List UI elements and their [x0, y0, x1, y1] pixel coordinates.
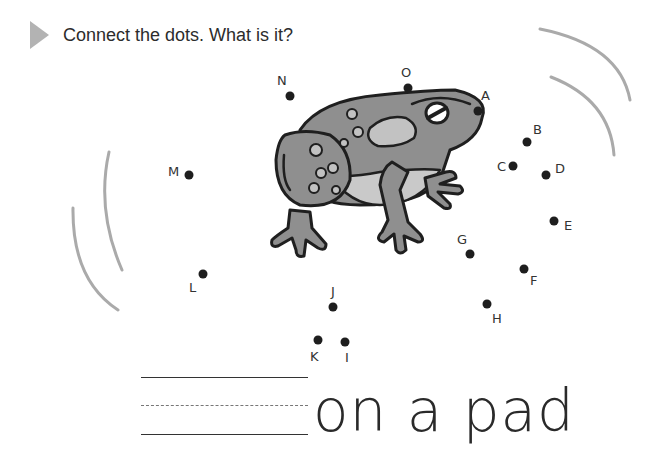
dot-label-m: M	[168, 165, 179, 178]
dot-j	[329, 303, 338, 312]
dot-f	[520, 265, 529, 274]
dot-n	[286, 92, 295, 101]
dot-c	[509, 162, 518, 171]
dot-o	[404, 84, 413, 93]
dot-m	[185, 171, 194, 180]
dot-label-a: A	[481, 89, 490, 102]
dot-label-b: B	[533, 123, 542, 136]
answer-suffix: on a pad	[313, 382, 575, 440]
dot-b	[523, 138, 532, 147]
dot-g	[466, 250, 475, 259]
answer-line-top	[141, 377, 308, 378]
dot-label-j: J	[331, 285, 335, 298]
dot-label-o: O	[401, 66, 411, 79]
dot-label-k: K	[310, 350, 319, 363]
dot-e	[550, 217, 559, 226]
dot-d	[542, 171, 551, 180]
answer-line-bottom[interactable]	[141, 434, 308, 435]
dot-label-f: F	[530, 274, 537, 287]
dot-label-i: I	[345, 351, 349, 364]
dot-label-e: E	[564, 219, 572, 232]
dot-l	[199, 270, 208, 279]
dot-h	[483, 300, 492, 309]
dot-label-c: C	[497, 160, 506, 173]
dot-label-g: G	[457, 233, 467, 246]
dot-label-l: L	[189, 281, 196, 294]
dot-a	[474, 107, 483, 116]
answer-line-mid	[141, 405, 308, 406]
dot-label-n: N	[277, 74, 287, 87]
dot-label-h: H	[492, 312, 502, 325]
dot-k	[314, 336, 323, 345]
dot-label-d: D	[555, 162, 565, 175]
dot-i	[341, 338, 350, 347]
frog-icon	[272, 90, 484, 256]
